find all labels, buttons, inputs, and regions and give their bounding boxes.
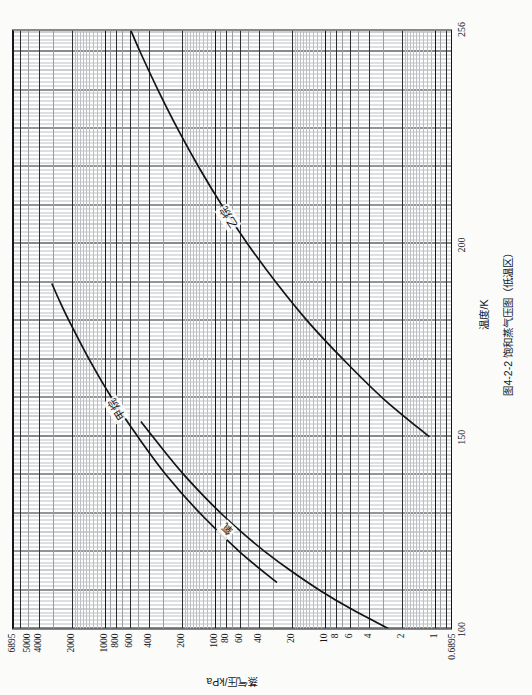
y-tick-label: 20 xyxy=(286,633,296,643)
y-tick-label: 10 xyxy=(319,633,329,643)
y-tick-label: 600 xyxy=(124,633,134,647)
y-tick-label: 8 xyxy=(330,633,340,638)
y-tick-label: 2 xyxy=(396,633,406,638)
x-tick-label: 200 xyxy=(456,237,467,252)
curve-0 xyxy=(141,421,388,628)
y-tick-label: 6 xyxy=(344,633,354,638)
y-tick-label: 100 xyxy=(209,633,219,647)
y-tick-label: 60 xyxy=(234,633,244,643)
y-tick-label: 200 xyxy=(176,633,186,647)
y-tick-label: 4 xyxy=(363,633,373,638)
x-tick-label: 150 xyxy=(456,429,467,444)
y-tick-label: 400 xyxy=(143,633,153,647)
x-axis-title: 温度/K xyxy=(476,299,491,329)
y-axis-title: 蒸气压/kPa xyxy=(206,674,257,689)
y-tick-label: 2000 xyxy=(66,633,76,652)
x-tick-label: 256 xyxy=(456,22,467,37)
y-tick-label: 6895 xyxy=(7,633,17,652)
y-tick-label: 4000 xyxy=(33,633,43,652)
x-tick-label: 100 xyxy=(456,622,467,637)
figure-caption: 图4-2-2 饱和蒸气压图（低温区） xyxy=(500,248,515,395)
y-tick-label: 1000 xyxy=(99,633,109,652)
y-tick-label: 80 xyxy=(220,633,230,643)
y-tick-label: 5000 xyxy=(22,633,32,652)
y-tick-label: 800 xyxy=(110,633,120,647)
curve-2 xyxy=(131,30,429,436)
curve-1 xyxy=(52,283,277,582)
vapor-pressure-curves xyxy=(13,30,452,628)
chart-plot-area xyxy=(12,29,452,629)
y-tick-label: 40 xyxy=(253,633,263,643)
y-tick-label: 1 xyxy=(429,633,439,638)
rotated-figure-stage: 0.68951246810204060801002004006008001000… xyxy=(0,0,532,695)
